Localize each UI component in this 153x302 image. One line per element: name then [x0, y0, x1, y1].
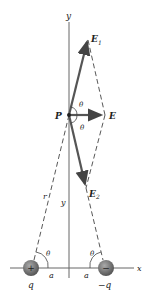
dashed-E-E2	[86, 115, 105, 188]
electric-dipole-diagram: + − y E 1 E E 2 P θ θ r y θ θ a a x q −q	[0, 0, 153, 302]
plus-sign: +	[27, 263, 35, 273]
x-axis-label: x	[137, 264, 142, 273]
point-P	[67, 113, 71, 117]
P-label: P	[54, 111, 62, 121]
E2-label: E	[88, 189, 96, 199]
q-label: q	[28, 280, 34, 290]
E1-label: E	[90, 34, 98, 44]
theta-right-label: θ	[90, 250, 95, 258]
E2-subscript: 2	[95, 193, 100, 200]
a-left-label: a	[49, 271, 54, 280]
y-axis-label: y	[65, 11, 72, 21]
r-label: r	[43, 192, 48, 201]
theta-upper-label: θ	[79, 101, 84, 109]
neg-q-label: −q	[98, 280, 112, 290]
E-label: E	[108, 111, 116, 121]
theta-arc-upper	[71, 107, 77, 115]
vector-E1	[69, 42, 87, 115]
a-right-label: a	[84, 271, 89, 280]
dashed-E1-E	[88, 40, 105, 115]
theta-left-label: θ	[46, 250, 51, 258]
theta-arc-lower	[71, 115, 77, 123]
minus-sign: −	[102, 263, 110, 273]
theta-lower-label: θ	[80, 124, 85, 132]
y-distance-label: y	[60, 198, 66, 207]
r-line	[34, 115, 69, 260]
E1-subscript: 1	[98, 39, 102, 46]
